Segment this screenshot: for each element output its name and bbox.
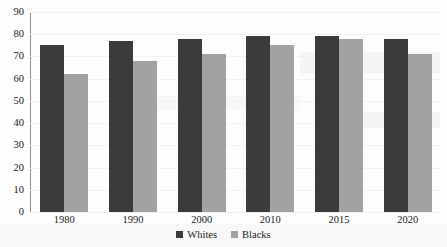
y-tick-label: 80 bbox=[0, 29, 24, 39]
x-tick-label: 2015 bbox=[305, 214, 374, 225]
y-tick-label: 0 bbox=[0, 207, 24, 217]
bar-group bbox=[305, 12, 374, 212]
legend-item-blacks[interactable]: Blacks bbox=[231, 229, 271, 240]
bar-blacks-1990[interactable] bbox=[133, 61, 157, 212]
y-tick-label: 40 bbox=[0, 118, 24, 128]
bar-blacks-2000[interactable] bbox=[202, 54, 226, 212]
bar-whites-2000[interactable] bbox=[178, 39, 202, 212]
x-tick-label: 2020 bbox=[373, 214, 442, 225]
bar-whites-1990[interactable] bbox=[109, 41, 133, 212]
y-tick-label: 20 bbox=[0, 163, 24, 173]
bar-group bbox=[30, 12, 99, 212]
bar-group bbox=[373, 12, 442, 212]
x-tick-label: 1980 bbox=[30, 214, 99, 225]
bar-whites-1980[interactable] bbox=[40, 45, 64, 212]
legend-item-whites[interactable]: Whites bbox=[176, 229, 217, 240]
y-tick-label: 90 bbox=[0, 7, 24, 17]
x-tick-label: 2010 bbox=[236, 214, 305, 225]
legend-swatch-icon bbox=[176, 231, 183, 238]
bar-group bbox=[236, 12, 305, 212]
y-tick-label: 70 bbox=[0, 51, 24, 61]
chart-legend: WhitesBlacks bbox=[0, 229, 447, 240]
bar-whites-2015[interactable] bbox=[315, 36, 339, 212]
bar-group bbox=[99, 12, 168, 212]
bar-blacks-2010[interactable] bbox=[270, 45, 294, 212]
y-tick-label: 50 bbox=[0, 96, 24, 106]
bar-blacks-2020[interactable] bbox=[408, 54, 432, 212]
y-tick-label: 30 bbox=[0, 140, 24, 150]
legend-swatch-icon bbox=[231, 231, 238, 238]
bar-group bbox=[167, 12, 236, 212]
bar-blacks-2015[interactable] bbox=[339, 39, 363, 212]
bar-blacks-1980[interactable] bbox=[64, 74, 88, 212]
y-tick-label: 60 bbox=[0, 74, 24, 84]
gridline bbox=[30, 212, 442, 213]
y-tick-label: 10 bbox=[0, 185, 24, 195]
legend-label: Blacks bbox=[242, 229, 271, 240]
bar-whites-2020[interactable] bbox=[384, 39, 408, 212]
bar-whites-2010[interactable] bbox=[246, 36, 270, 212]
bar-chart: 9080706050403020100 19801990200020102015… bbox=[0, 0, 447, 247]
x-axis-tick-labels: 198019902000201020152020 bbox=[30, 214, 442, 225]
legend-label: Whites bbox=[187, 229, 217, 240]
x-tick-label: 2000 bbox=[167, 214, 236, 225]
bar-groups bbox=[30, 12, 442, 212]
x-tick-label: 1990 bbox=[99, 214, 168, 225]
